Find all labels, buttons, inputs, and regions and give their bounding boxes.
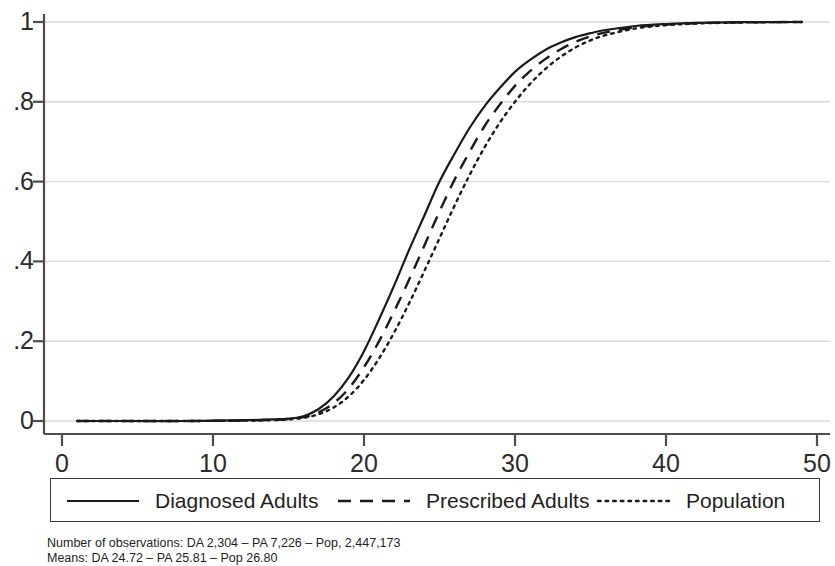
legend-entry: Prescribed Adults: [336, 479, 589, 523]
x-axis-tick-label: 10: [183, 451, 243, 476]
legend-entry: Diagnosed Adults: [65, 479, 318, 523]
x-axis-tick-label: 0: [32, 451, 92, 476]
series-line: [77, 22, 802, 421]
series-lines: [77, 22, 802, 421]
caption-line-means: Means: DA 24.72 – PA 25.81 – Pop 26.80: [47, 551, 827, 566]
legend-label: Population: [686, 489, 785, 513]
legend-entry: Population: [596, 479, 785, 523]
series-line: [77, 22, 802, 421]
x-axis-tick-label: 50: [787, 451, 835, 476]
chart-legend: Diagnosed AdultsPrescribed AdultsPopulat…: [50, 478, 820, 522]
tick-marks: [33, 22, 817, 446]
y-axis-tick-label: 1: [0, 9, 34, 34]
y-axis-tick-label: .2: [0, 328, 34, 353]
x-axis-tick-label: 30: [485, 451, 545, 476]
legend-label: Diagnosed Adults: [155, 489, 318, 513]
y-axis-tick-label: 0: [0, 408, 34, 433]
y-axis-tick-label: .4: [0, 248, 34, 273]
series-line: [77, 22, 802, 421]
y-axis-tick-label: .8: [0, 89, 34, 114]
plot-area: [0, 0, 830, 470]
axis-lines: [44, 14, 830, 434]
legend-label: Prescribed Adults: [426, 489, 589, 513]
legend-key-dotted-icon: [596, 494, 672, 508]
y-axis-tick-label: .6: [0, 169, 34, 194]
x-axis-tick-label: 40: [636, 451, 696, 476]
legend-key-solid-icon: [65, 494, 141, 508]
legend-key-dashed-icon: [336, 494, 412, 508]
x-axis-tick-label: 20: [334, 451, 394, 476]
gridlines: [44, 22, 830, 421]
chart-caption: Number of observations: DA 2,304 – PA 7,…: [47, 536, 827, 566]
caption-line-observations: Number of observations: DA 2,304 – PA 7,…: [47, 536, 827, 551]
